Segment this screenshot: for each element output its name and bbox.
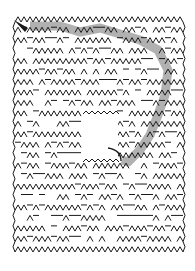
- maze-canvas: [0, 0, 195, 271]
- center-hole: [83, 114, 118, 162]
